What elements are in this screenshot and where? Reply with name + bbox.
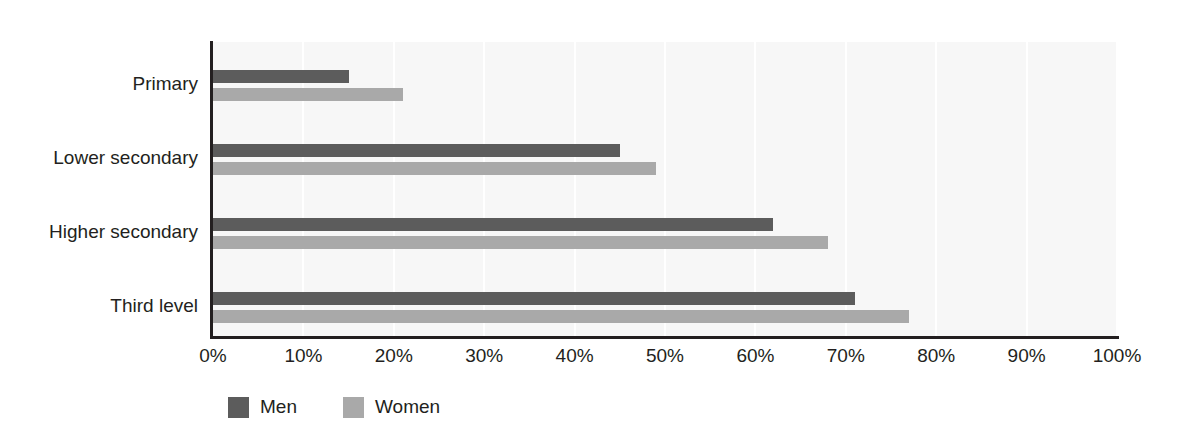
legend-swatch-icon — [228, 397, 249, 418]
legend-item-men[interactable]: Men — [228, 396, 297, 418]
category-label: Third level — [0, 295, 198, 317]
x-tick-label: 60% — [715, 345, 795, 367]
bar-men-primary — [213, 70, 349, 83]
bar-men-higher-secondary — [213, 218, 773, 231]
bar-men-lower-secondary — [213, 144, 620, 157]
gridline — [1026, 42, 1028, 338]
x-tick-label: 70% — [806, 345, 886, 367]
legend-label: Men — [260, 396, 297, 418]
bar-women-higher-secondary — [213, 236, 828, 249]
x-tick-label: 40% — [535, 345, 615, 367]
bar-women-lower-secondary — [213, 162, 656, 175]
bar-women-primary — [213, 88, 403, 101]
x-tick-label: 100% — [1077, 345, 1157, 367]
gridline — [1116, 42, 1118, 338]
x-axis-line — [210, 336, 1119, 339]
legend-swatch-icon — [343, 397, 364, 418]
chart-legend: MenWomen — [228, 396, 440, 418]
category-label: Higher secondary — [0, 221, 198, 243]
x-tick-label: 80% — [896, 345, 976, 367]
bar-chart: PrimaryLower secondaryHigher secondaryTh… — [0, 0, 1198, 438]
gridline — [935, 42, 937, 338]
x-tick-label: 90% — [987, 345, 1067, 367]
x-tick-label: 50% — [625, 345, 705, 367]
x-tick-label: 10% — [263, 345, 343, 367]
legend-label: Women — [375, 396, 440, 418]
category-label: Lower secondary — [0, 147, 198, 169]
category-label: Primary — [0, 73, 198, 95]
x-tick-label: 0% — [173, 345, 253, 367]
bar-men-third-level — [213, 292, 855, 305]
x-tick-label: 20% — [354, 345, 434, 367]
bar-women-third-level — [213, 310, 909, 323]
legend-item-women[interactable]: Women — [343, 396, 440, 418]
x-tick-label: 30% — [444, 345, 524, 367]
